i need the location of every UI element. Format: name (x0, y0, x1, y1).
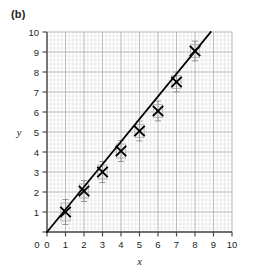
y-tick-label: 0 (34, 239, 39, 250)
x-tick-label: 8 (192, 239, 197, 250)
y-tick-label: 5 (34, 127, 39, 138)
y-tick-label: 4 (34, 147, 39, 158)
x-tick-label: 2 (81, 239, 86, 250)
y-tick-label: 3 (34, 167, 39, 178)
y-tick-label: 10 (28, 27, 39, 38)
x-tick-label: 0 (44, 239, 49, 250)
x-axis-title: x (136, 256, 142, 267)
x-tick-labels: 012345678910 (44, 239, 237, 250)
y-tick-labels: 012345678910 (28, 27, 39, 251)
x-tick-label: 1 (63, 239, 68, 250)
y-tick-label: 8 (34, 67, 39, 78)
scatter-chart: 012345678910 012345678910 x y (0, 0, 258, 270)
y-tick-label: 2 (34, 187, 39, 198)
x-tick-label: 10 (227, 239, 238, 250)
x-tick-label: 7 (174, 239, 179, 250)
y-tick-label: 9 (34, 47, 39, 58)
x-tick-label: 6 (155, 239, 160, 250)
y-tick-label: 7 (34, 87, 39, 98)
y-axis-title: y (16, 127, 22, 138)
y-tick-label: 6 (34, 107, 39, 118)
x-tick-label: 5 (137, 239, 142, 250)
figure-panel: (b) 012345678910 012345678910 x y (0, 0, 258, 270)
x-tick-label: 4 (118, 239, 123, 250)
y-tick-label: 1 (34, 207, 39, 218)
x-tick-label: 3 (100, 239, 105, 250)
x-tick-label: 9 (211, 239, 216, 250)
